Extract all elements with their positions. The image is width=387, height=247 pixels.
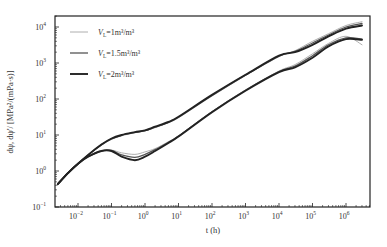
- legend-label: VL=1.5m³/m³: [98, 49, 141, 59]
- legend-label: VL=1m³/m³: [98, 28, 135, 38]
- y-tick-label: 102: [35, 93, 46, 104]
- y-axis-label: dψ, dψ'/ [MPa²/(mPa·s)]: [5, 70, 15, 153]
- series-line: [58, 24, 362, 184]
- x-tick-label: 101: [171, 210, 182, 221]
- y-tick-label: 101: [35, 129, 46, 140]
- x-tick-label: 106: [339, 210, 350, 221]
- y-tick-label: 10−1: [32, 201, 46, 212]
- x-tick-label: 10−1: [103, 210, 117, 221]
- series-layer: [58, 22, 362, 185]
- series-line: [58, 39, 362, 184]
- series-line: [58, 38, 362, 184]
- chart: 10−210−110010110210310410510610−11001011…: [0, 0, 387, 247]
- x-tick-label: 102: [205, 210, 216, 221]
- axis-ticks: 10−210−110010110210310410510610−11001011…: [32, 16, 369, 221]
- y-tick-label: 104: [35, 21, 46, 32]
- x-tick-label: 103: [238, 210, 249, 221]
- series-line: [58, 22, 362, 184]
- y-tick-label: 103: [35, 57, 46, 68]
- legend-label: VL=2m³/m³: [98, 70, 135, 80]
- series-line: [58, 26, 362, 185]
- y-tick-label: 100: [35, 165, 46, 176]
- legend: VL=1m³/m³VL=1.5m³/m³VL=2m³/m³: [70, 28, 141, 80]
- x-axis-label: t (h): [206, 225, 221, 235]
- x-tick-label: 10−2: [69, 210, 83, 221]
- x-tick-label: 104: [272, 210, 283, 221]
- x-tick-label: 105: [305, 210, 316, 221]
- x-tick-label: 100: [138, 210, 149, 221]
